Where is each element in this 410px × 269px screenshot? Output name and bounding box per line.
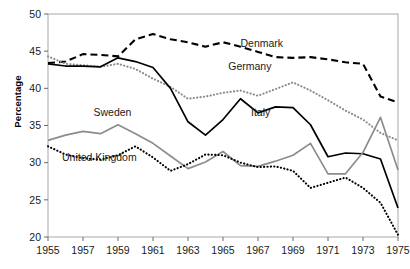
x-tick-label: 1975: [386, 244, 410, 256]
y-tick-label: 20: [29, 231, 41, 243]
x-tick-label: 1957: [71, 244, 95, 256]
series-label-italy: Italy: [251, 106, 271, 118]
series-line-germany: [48, 56, 398, 140]
y-tick-label: 45: [29, 45, 41, 57]
line-chart: Percentage 20253035404550195519571959196…: [0, 0, 410, 269]
y-tick-label: 30: [29, 156, 41, 168]
x-tick-label: 1963: [176, 244, 200, 256]
x-tick-label: 1971: [316, 244, 340, 256]
x-tick-label: 1973: [351, 244, 375, 256]
plot-frame: [48, 14, 398, 237]
series-label-united-kingdom: United Kingdom: [62, 151, 137, 163]
x-tick-label: 1967: [246, 244, 270, 256]
series-label-germany: Germany: [228, 60, 272, 72]
x-tick-label: 1961: [141, 244, 165, 256]
series-label-denmark: Denmark: [241, 37, 284, 49]
y-tick-label: 40: [29, 82, 41, 94]
chart-plot-area: 2025303540455019551957195919611963196519…: [0, 0, 410, 269]
series-line-sweden: [48, 117, 398, 174]
y-tick-label: 25: [29, 194, 41, 206]
series-label-sweden: Sweden: [94, 106, 132, 118]
x-tick-label: 1965: [211, 244, 235, 256]
x-tick-label: 1959: [106, 244, 130, 256]
x-tick-label: 1955: [36, 244, 60, 256]
x-tick-label: 1969: [281, 244, 305, 256]
y-tick-label: 35: [29, 119, 41, 131]
y-tick-label: 50: [29, 8, 41, 20]
